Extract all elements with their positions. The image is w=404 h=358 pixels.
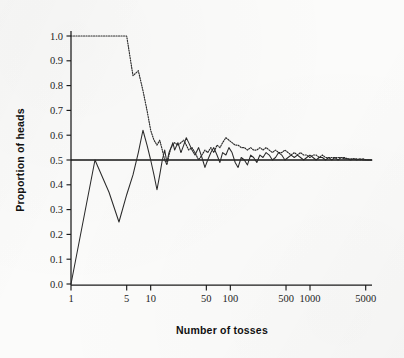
y-axis: 0.00.10.20.30.40.50.60.70.80.91.0 (50, 31, 71, 290)
y-tick-label: 0.1 (50, 254, 63, 265)
x-tick-label: 5000 (355, 293, 376, 304)
x-tick-label: 500 (278, 293, 294, 304)
x-tick-label: 10 (145, 293, 156, 304)
y-tick-label: 0.7 (50, 105, 63, 116)
figure-container: 0.00.10.20.30.40.50.60.70.80.91.0 151050… (0, 0, 404, 358)
y-tick-label: 0.6 (50, 130, 63, 141)
x-tick-label: 5 (124, 293, 129, 304)
coin-toss-convergence-chart: 0.00.10.20.30.40.50.60.70.80.91.0 151050… (0, 0, 404, 358)
y-axis-title: Proportion of heads (14, 108, 26, 212)
x-tick-label: 100 (222, 293, 238, 304)
x-tick-label: 1 (68, 293, 73, 304)
series-line-1 (71, 130, 372, 284)
y-tick-label: 0.0 (50, 279, 63, 290)
y-tick-label: 0.4 (50, 179, 64, 190)
y-tick-label: 0.9 (50, 55, 63, 66)
y-tick-label: 1.0 (50, 31, 63, 42)
x-axis: 15105010050010005000 (68, 285, 376, 304)
x-axis-title: Number of tosses (176, 324, 268, 336)
y-tick-label: 0.5 (50, 155, 63, 166)
x-tick-label: 50 (201, 293, 212, 304)
y-tick-label: 0.2 (50, 229, 63, 240)
y-tick-label: 0.3 (50, 204, 63, 215)
x-tick-label: 1000 (300, 293, 321, 304)
series-line-2 (71, 36, 372, 165)
y-tick-label: 0.8 (50, 80, 63, 91)
